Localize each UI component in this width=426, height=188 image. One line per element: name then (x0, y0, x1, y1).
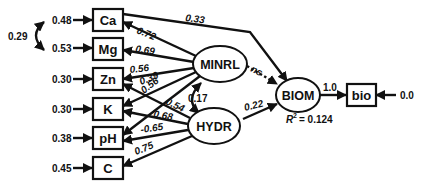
svg-text:HYDR: HYDR (196, 120, 231, 134)
svg-text:pH: pH (99, 131, 116, 146)
error-bio: 0.0 (400, 90, 414, 101)
node-zn: Zn (93, 68, 123, 90)
error-zn: 0.30 (52, 74, 72, 85)
latent-correlation-value: 0.17 (188, 93, 208, 104)
svg-text:2: 2 (293, 112, 297, 119)
error-ca: 0.48 (52, 15, 72, 26)
svg-text:bio: bio (352, 88, 372, 103)
error-ph: 0.38 (52, 133, 72, 144)
node-biom: BIOM (276, 78, 320, 112)
error-covariance-arc (36, 22, 44, 50)
latent-variables: MINRL HYDR BIOM (188, 46, 320, 144)
node-k: K (93, 98, 123, 120)
svg-text:ns: ns (249, 63, 265, 78)
svg-text:Mg: Mg (99, 42, 118, 57)
svg-text:= 0.124: = 0.124 (299, 114, 333, 125)
svg-text:MINRL: MINRL (200, 58, 240, 72)
node-minrl: MINRL (193, 46, 247, 82)
svg-text:0.68: 0.68 (153, 108, 175, 122)
svg-text:0.69: 0.69 (135, 43, 156, 57)
svg-text:K: K (103, 102, 113, 117)
svg-text:C: C (103, 161, 113, 176)
node-mg: Mg (93, 38, 123, 60)
svg-text:Zn: Zn (100, 72, 116, 87)
error-covariance-value: 0.29 (8, 31, 28, 42)
node-c: C (93, 157, 123, 179)
r-squared-label: R 2 = 0.124 (286, 112, 333, 125)
node-bio: bio (347, 84, 376, 106)
svg-text:1.0: 1.0 (323, 82, 337, 93)
svg-text:0.72: 0.72 (135, 25, 158, 43)
error-k: 0.30 (52, 104, 72, 115)
node-ca: Ca (93, 9, 123, 31)
svg-text:Ca: Ca (100, 13, 117, 28)
node-hydr: HYDR (188, 108, 240, 144)
node-ph: pH (93, 127, 123, 149)
error-mg: 0.53 (52, 43, 72, 54)
svg-text:-0.65: -0.65 (140, 121, 165, 135)
path-diagram: 0.29 0.48 0.53 0.30 0.30 0.38 0.45 0.0 (0, 0, 426, 188)
error-c: 0.45 (52, 163, 72, 174)
svg-text:BIOM: BIOM (282, 89, 315, 103)
